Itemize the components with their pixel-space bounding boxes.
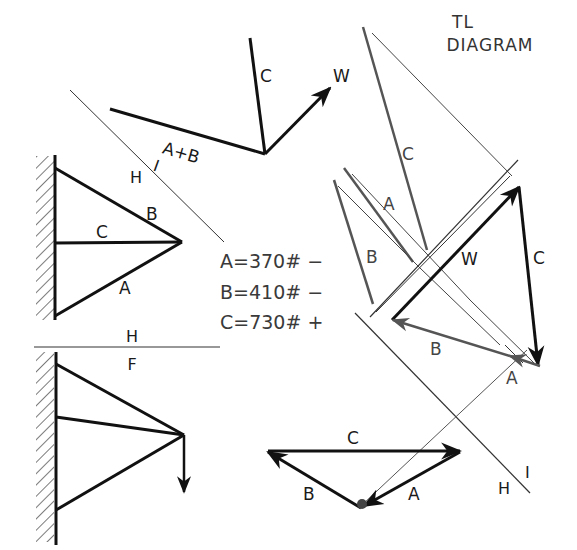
title-line-2: DIAGRAM [446,35,533,55]
result-b: B=410# − [220,281,323,303]
wall-hatch-upper [36,156,54,320]
top-view-label-c: C [260,66,272,86]
tl-label-c-upper: C [402,144,414,164]
polygon-label-b: B [303,484,315,504]
upper-label-c: C [96,222,108,242]
tl-line-c [363,27,427,250]
result-c: C=730# + [220,311,323,333]
fold-label-h: H [130,168,142,187]
truss-tl-diagram-drawing: TL DIAGRAM C W A+B H I C B A H F [0,0,577,550]
tl-label-b-upper: B [366,247,378,267]
tl-fold-line-hi [355,313,530,493]
upper-label-b: B [146,204,158,224]
tl-label-a-lower: A [506,368,518,388]
upper-label-a: A [119,278,131,298]
top-view-load-w [265,88,330,154]
fold-label-h-horizontal: H [126,327,138,346]
lower-member-b [56,364,184,435]
tl-diagram-title: TL DIAGRAM [446,12,533,55]
wall-hatch-lower [36,352,54,542]
tl-label-c-right: C [533,248,545,268]
fold-label-i: I [151,156,162,175]
top-view: C W A+B [110,38,350,167]
tl-vector-c [519,187,538,365]
tl-fold-line-upper [370,160,518,317]
result-a: A=370# − [220,250,323,272]
tl-label-a-upper: A [383,194,395,214]
top-view-label-w: W [333,66,350,86]
polygon-label-c: C [347,428,359,448]
tl-vector-w [392,187,519,320]
member-force-results: A=370# − B=410# − C=730# + [220,250,323,333]
fold-label-h-lower: H [498,479,510,498]
upper-truss: C B A [36,155,182,320]
fold-label-i-lower: I [525,463,530,482]
upper-member-c [55,242,182,243]
tl-label-w: W [461,249,478,269]
top-view-label-ab: A+B [160,138,202,168]
lower-member-a [56,435,184,510]
polygon-origin-point [357,499,367,509]
tl-vector-a [510,356,540,366]
lower-truss [36,352,184,545]
fold-label-f: F [127,355,136,374]
polygon-label-a: A [408,484,420,504]
tl-label-b-lower: B [430,339,442,359]
title-line-1: TL [451,12,474,32]
top-view-member-c [250,38,265,154]
tl-diagram-construction: C A B W C B A [334,27,545,505]
upper-member-b [55,168,182,242]
fold-line-hi-lower-labels: H I [498,463,530,498]
